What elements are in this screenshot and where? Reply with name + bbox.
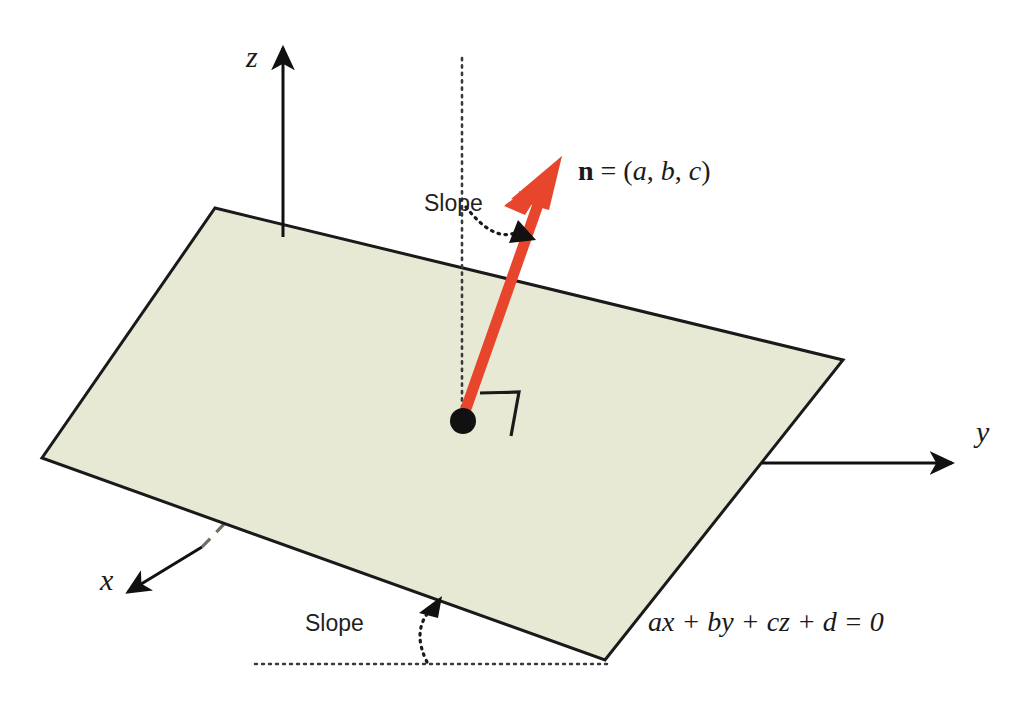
slope-arc-lower-path [420, 614, 427, 662]
normal-separator-2: , [675, 155, 689, 186]
y-axis-label: y [976, 417, 989, 447]
x-axis-line [128, 547, 202, 592]
diagram-canvas: z y x Slope Slope ax + by + cz + d = 0 n… [0, 0, 1024, 704]
slope-arc-lower-arrowhead [419, 596, 442, 618]
normal-vector-symbol: n [578, 155, 594, 186]
x-axis-label: x [100, 565, 113, 595]
normal-separator-1: , [647, 155, 661, 186]
normal-component-a: a [633, 155, 647, 186]
normal-vector-equals: = ( [594, 155, 633, 186]
normal-vector-label: n = (a, b, c) [578, 157, 710, 185]
plane-normal-diagram-svg [0, 0, 1024, 704]
normal-component-b: b [661, 155, 675, 186]
plane-surface [42, 208, 843, 660]
slope-label-lower: Slope [305, 612, 364, 635]
normal-close-paren: ) [701, 155, 710, 186]
normal-component-c: c [689, 155, 701, 186]
slope-arc-lower [419, 596, 442, 662]
plane-equation-label: ax + by + cz + d = 0 [648, 608, 884, 636]
z-axis-label: z [246, 42, 258, 72]
slope-label-upper: Slope [424, 192, 483, 215]
origin-point-marker [450, 408, 476, 434]
